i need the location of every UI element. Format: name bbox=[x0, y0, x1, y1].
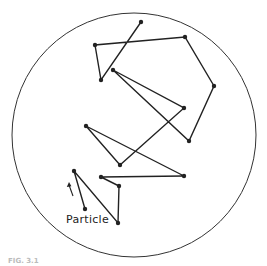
collision-point bbox=[182, 174, 186, 178]
collision-point bbox=[116, 221, 120, 225]
collision-point bbox=[212, 84, 216, 88]
collision-point bbox=[182, 106, 186, 110]
particle-path bbox=[74, 22, 214, 223]
collision-point bbox=[183, 35, 187, 39]
direction-arrow-icon bbox=[67, 182, 73, 196]
collision-point bbox=[187, 139, 191, 143]
collision-point bbox=[83, 207, 87, 211]
collision-point bbox=[99, 175, 103, 179]
collision-point bbox=[93, 43, 97, 47]
random-walk-diagram bbox=[0, 0, 267, 266]
particle-label: Particle bbox=[66, 213, 109, 226]
collision-point bbox=[117, 184, 121, 188]
collision-point bbox=[72, 169, 76, 173]
container-boundary-circle bbox=[12, 13, 256, 257]
collision-point bbox=[118, 163, 122, 167]
collision-point bbox=[111, 68, 115, 72]
collision-point bbox=[99, 78, 103, 82]
collision-point bbox=[139, 20, 143, 24]
figure-caption: FIG. 3.1 bbox=[8, 257, 39, 265]
collision-point bbox=[84, 124, 88, 128]
